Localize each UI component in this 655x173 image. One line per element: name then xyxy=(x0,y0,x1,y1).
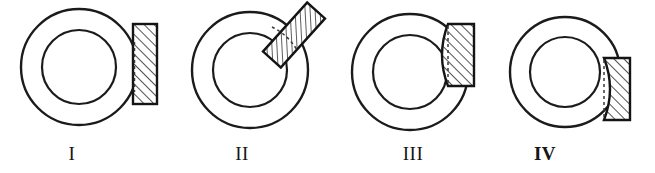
figure-IV xyxy=(510,17,638,127)
figure-plate: I II III IV xyxy=(0,0,655,173)
figure-I-inner-circle xyxy=(42,30,116,104)
figure-IV-inner-circle xyxy=(530,37,600,107)
figure-II-hatched-block xyxy=(263,2,325,67)
figure-III-hatched-block xyxy=(430,18,482,92)
figure-label-3: III xyxy=(393,143,433,165)
figure-I-outer-circle xyxy=(21,9,137,125)
figure-I xyxy=(21,9,157,125)
figure-I-hatched-block xyxy=(133,24,157,104)
figure-I-block-hatch xyxy=(133,24,157,104)
figure-label-1: I xyxy=(52,143,92,165)
figure-II xyxy=(192,2,325,128)
figure-II-block-hatch xyxy=(263,2,325,67)
figure-III xyxy=(352,14,482,130)
figure-IV-hatched-block xyxy=(598,52,638,126)
figure-III-inner-circle xyxy=(373,35,447,109)
figure-label-2: II xyxy=(222,143,262,165)
figure-label-4: IV xyxy=(525,143,565,165)
